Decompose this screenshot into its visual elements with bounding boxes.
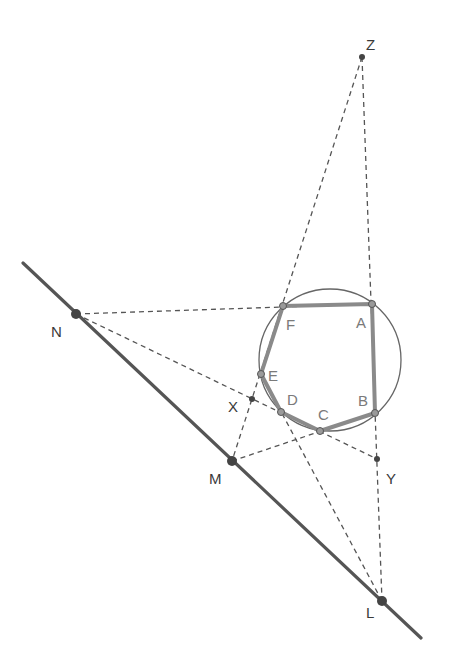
point-y: [374, 456, 380, 462]
label-z: Z: [366, 36, 375, 53]
label-x: X: [228, 398, 238, 415]
vertex-a: [369, 301, 376, 308]
point-n: [71, 309, 81, 319]
label-c: C: [318, 406, 329, 423]
vertex-b: [372, 410, 379, 417]
vertex-f: [280, 303, 287, 310]
label-e: E: [268, 367, 278, 384]
dashed-line-n-y: [76, 314, 377, 459]
label-d: D: [287, 391, 298, 408]
point-m: [227, 456, 237, 466]
point-z: [359, 54, 365, 60]
vertex-d: [278, 409, 285, 416]
label-a: A: [356, 314, 366, 331]
vertex-e: [258, 371, 265, 378]
vertex-c: [317, 428, 324, 435]
label-f: F: [286, 316, 295, 333]
label-n: N: [51, 323, 62, 340]
point-x: [249, 396, 255, 402]
label-m: M: [209, 470, 222, 487]
point-l: [377, 596, 387, 606]
label-l: L: [366, 604, 374, 621]
geometry-diagram: Z N M L X Y A B C D E F: [0, 0, 449, 667]
label-y: Y: [386, 470, 396, 487]
label-b: B: [358, 392, 368, 409]
